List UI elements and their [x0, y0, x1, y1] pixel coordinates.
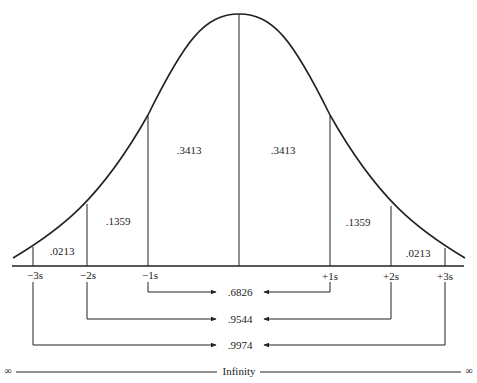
area-label-m2-m1: .1359 — [106, 216, 131, 227]
tick-minus-2s: −2s — [80, 270, 96, 281]
range-1s-label: .6826 — [228, 287, 253, 298]
infinity-left-symbol: ∞ — [4, 366, 11, 376]
area-label-m3-m2: .0213 — [50, 246, 75, 257]
area-label-p2-p3: .0213 — [406, 248, 431, 259]
normal-curve-diagram — [0, 0, 477, 383]
area-label-p1-p2: .1359 — [346, 217, 371, 228]
tick-minus-1s: −1s — [142, 270, 158, 281]
tick-minus-3s: −3s — [27, 270, 43, 281]
range-3s-label: .9974 — [228, 340, 253, 351]
tick-plus-2s: +2s — [383, 271, 399, 282]
tick-plus-3s: +3s — [437, 271, 453, 282]
area-label-m1-0: .3413 — [177, 145, 202, 156]
tick-plus-1s: +1s — [322, 271, 338, 282]
range-2s-label: .9544 — [228, 314, 253, 325]
infinity-right-symbol: ∞ — [465, 366, 472, 376]
infinity-label: Infinity — [223, 366, 256, 377]
area-label-0-p1: .3413 — [271, 145, 296, 156]
